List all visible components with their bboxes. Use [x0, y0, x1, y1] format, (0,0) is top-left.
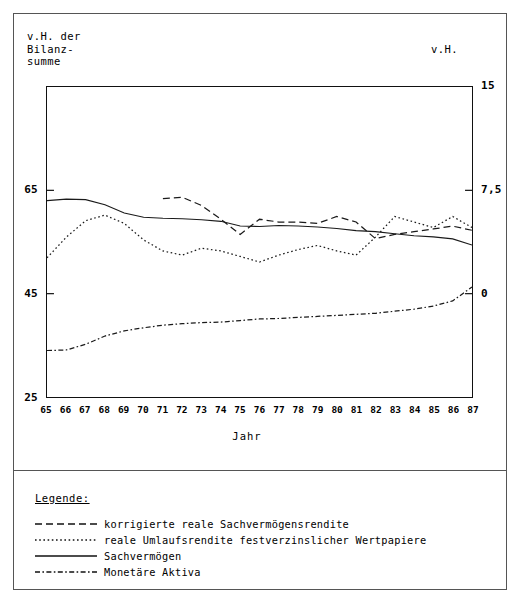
x-axis-title: Jahr	[0, 430, 494, 442]
series-line	[47, 215, 472, 262]
legend-divider	[14, 470, 506, 471]
legend-entry: Sachvermögen	[35, 549, 485, 563]
left-tick-label: 45	[4, 287, 38, 300]
legend-line-swatch	[35, 518, 97, 530]
left-tick-label: 65	[4, 183, 38, 196]
legend: Legende: korrigierte reale Sachvermögens…	[35, 492, 485, 581]
legend-entry: korrigierte reale Sachvermögensrendite	[35, 517, 485, 531]
legend-title: Legende:	[35, 492, 485, 504]
series-line	[163, 197, 472, 238]
right-tick-label: 7,5	[481, 183, 520, 196]
plot-area	[46, 86, 473, 398]
legend-entry: reale Umlaufsrendite festverzinslicher W…	[35, 533, 485, 547]
left-axis-caption: v.H. der Bilanz- summe	[27, 30, 81, 68]
chart-canvas	[47, 87, 472, 397]
legend-line-swatch	[35, 534, 97, 546]
legend-line-swatch	[35, 566, 97, 578]
left-tick-label: 25	[4, 391, 38, 404]
right-axis-caption: v.H.	[431, 43, 458, 56]
legend-entry-label: Sachvermögen	[104, 550, 181, 562]
series-line	[47, 199, 472, 245]
legend-line-swatch	[35, 550, 97, 562]
legend-entry-label: korrigierte reale Sachvermögensrendite	[104, 518, 349, 530]
legend-entry-label: reale Umlaufsrendite festverzinslicher W…	[104, 534, 426, 546]
legend-entry-label: Monetäre Aktiva	[104, 566, 201, 578]
x-tick-label: 87	[462, 404, 484, 415]
right-tick-label: 15	[481, 79, 520, 92]
series-line	[47, 287, 472, 351]
right-tick-label: 0	[481, 287, 520, 300]
legend-entry: Monetäre Aktiva	[35, 565, 485, 579]
